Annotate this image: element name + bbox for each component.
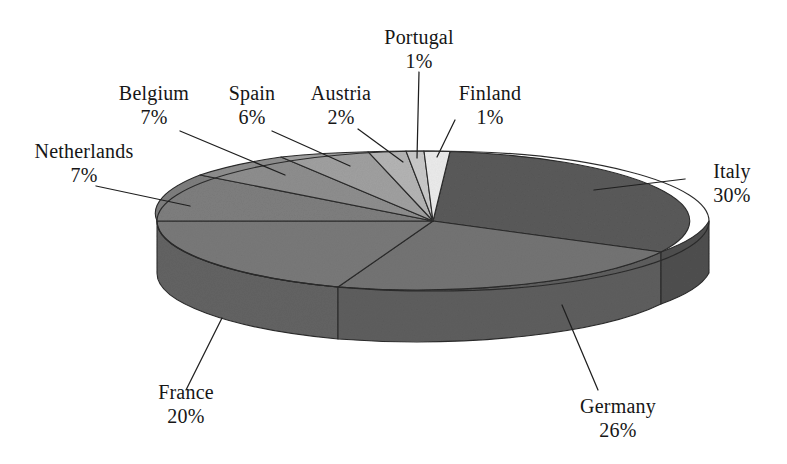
label-france: France 20% — [132, 381, 240, 428]
label-italy: Italy 30% — [694, 160, 770, 207]
pie-chart-figure: Portugal 1% Finland 1% Belgium 7% Spain … — [0, 0, 787, 464]
label-finland: Finland 1% — [440, 82, 540, 129]
label-portugal: Portugal 1% — [366, 26, 472, 73]
label-belgium-value: 7% — [104, 106, 204, 130]
label-italy-name: Italy — [694, 160, 770, 184]
label-germany: Germany 26% — [556, 395, 680, 442]
leader-line-france — [186, 318, 222, 390]
label-spain-name: Spain — [212, 82, 292, 106]
label-netherlands: Netherlands 7% — [14, 140, 154, 187]
label-spain: Spain 6% — [212, 82, 292, 129]
label-finland-name: Finland — [440, 82, 540, 106]
label-finland-value: 1% — [440, 106, 540, 130]
label-austria: Austria 2% — [298, 82, 384, 129]
label-austria-name: Austria — [298, 82, 384, 106]
label-france-value: 20% — [132, 405, 240, 429]
label-belgium: Belgium 7% — [104, 82, 204, 129]
label-portugal-name: Portugal — [366, 26, 472, 50]
label-belgium-name: Belgium — [104, 82, 204, 106]
label-germany-name: Germany — [556, 395, 680, 419]
label-austria-value: 2% — [298, 106, 384, 130]
label-portugal-value: 1% — [366, 50, 472, 74]
leader-line-portugal — [417, 72, 419, 158]
label-netherlands-value: 7% — [14, 164, 154, 188]
label-netherlands-name: Netherlands — [14, 140, 154, 164]
label-germany-value: 26% — [556, 419, 680, 443]
label-spain-value: 6% — [212, 106, 292, 130]
label-italy-value: 30% — [694, 184, 770, 208]
label-france-name: France — [132, 381, 240, 405]
